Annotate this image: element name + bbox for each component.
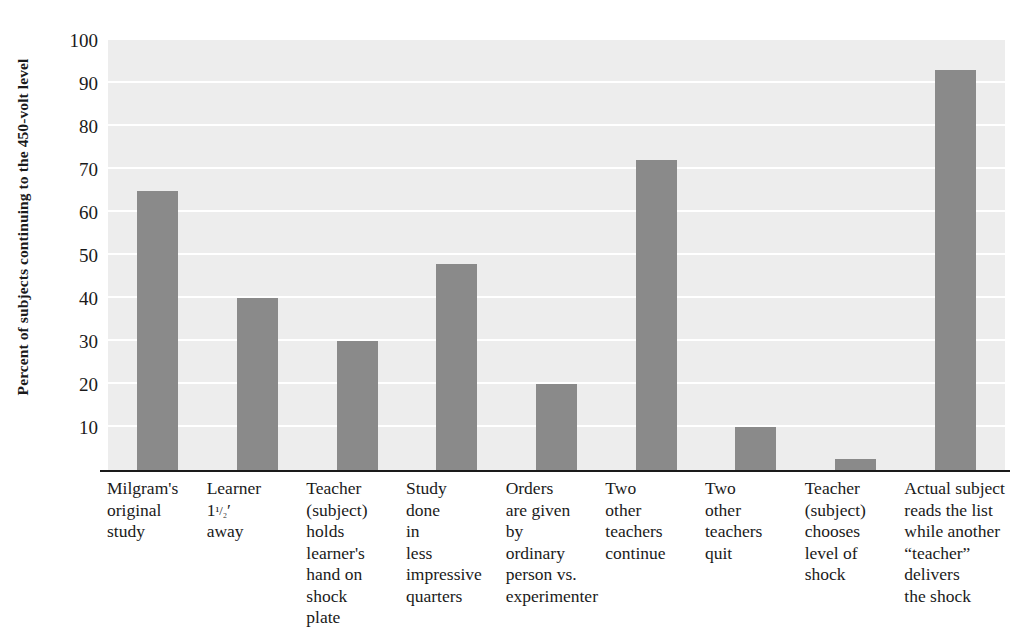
y-axis-tick-labels: 102030405060708090100 — [46, 30, 104, 482]
x-axis-category-label: Studydoneinlessimpressivequarters — [406, 478, 520, 607]
y-axis-tick-label: 70 — [79, 160, 98, 179]
x-axis-category-label: Actual subjectreads the listwhile anothe… — [904, 478, 1014, 607]
y-axis-tick-label: 100 — [70, 31, 99, 50]
x-axis-category-label: Ordersare givenbyordinaryperson vs.exper… — [506, 478, 620, 607]
x-axis-category-labels: Milgram'soriginalstudyLearner1¹/₂′awayTe… — [108, 478, 1014, 632]
x-axis-category-label: Milgram'soriginalstudy — [107, 478, 221, 543]
bar-chart-figure: Percent of subjects continuing to the 45… — [0, 0, 1014, 632]
x-axis-category-label: Twootherteachersquit — [705, 478, 819, 564]
x-axis-line — [100, 470, 1010, 472]
y-axis-tick-label: 50 — [79, 246, 98, 265]
bar — [436, 264, 477, 470]
y-axis-tick-label: 90 — [79, 74, 98, 93]
bar — [835, 459, 876, 470]
y-axis-tick-label: 20 — [79, 375, 98, 394]
y-axis-tick-label: 10 — [79, 418, 98, 437]
bar — [935, 70, 976, 470]
bar — [735, 427, 776, 470]
bar — [137, 191, 178, 471]
y-axis-tick-label: 60 — [79, 203, 98, 222]
x-axis-category-label: Learner1¹/₂′away — [207, 478, 321, 543]
bar — [636, 160, 677, 470]
bar — [237, 298, 278, 470]
y-axis-tick-label: 40 — [79, 289, 98, 308]
bar — [536, 384, 577, 470]
bar — [337, 341, 378, 470]
x-axis-category-label: Teacher(subject)holdslearner'shand onsho… — [306, 478, 420, 629]
x-axis-category-label: Teacher(subject)chooseslevel ofshock — [805, 478, 919, 586]
x-axis-category-label: Twootherteacherscontinue — [605, 478, 719, 564]
y-axis-tick-label: 30 — [79, 332, 98, 351]
bars-group — [108, 40, 1005, 470]
plot-area — [108, 40, 1005, 470]
y-axis-title-text: Percent of subjects continuing to the 45… — [14, 59, 32, 396]
y-axis-title: Percent of subjects continuing to the 45… — [0, 0, 46, 472]
y-axis-tick-label: 80 — [79, 117, 98, 136]
